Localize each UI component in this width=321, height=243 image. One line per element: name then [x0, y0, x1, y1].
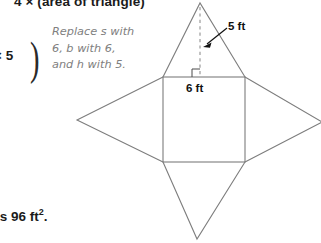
height-leader-arrow — [203, 28, 227, 48]
triangle-top — [163, 3, 245, 77]
triangle-right — [245, 77, 321, 162]
triangle-bottom — [163, 162, 245, 239]
base-label: 6 ft — [186, 82, 203, 94]
triangle-left — [77, 77, 163, 162]
pyramid-net-figure — [0, 0, 321, 243]
height-label: 5 ft — [228, 20, 245, 32]
worksheet-page: 4 × (area of triangle) × 5 ) Replace s w… — [0, 0, 321, 243]
base-square — [163, 77, 245, 162]
right-angle-marker — [192, 69, 200, 77]
